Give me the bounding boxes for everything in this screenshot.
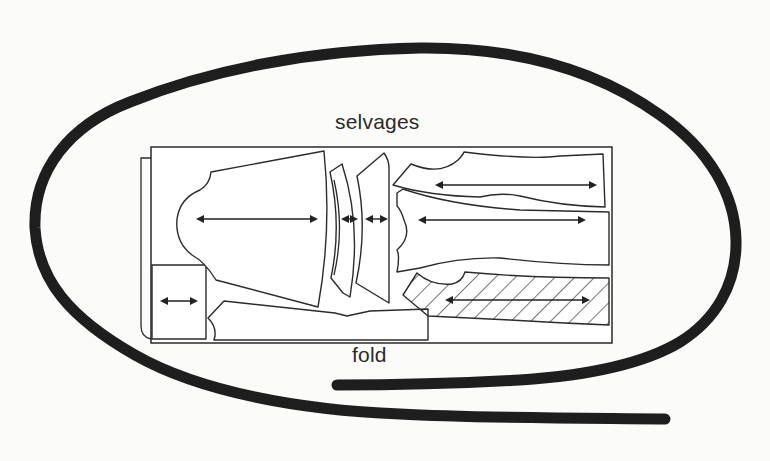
piece-small-rectangle	[152, 265, 206, 339]
fold-label: fold	[352, 343, 387, 367]
pattern-layout-diagram	[0, 0, 770, 461]
selvages-label: selvages	[335, 110, 419, 134]
fabric-layout	[141, 147, 612, 343]
fabric-edge-bracket	[141, 158, 151, 339]
